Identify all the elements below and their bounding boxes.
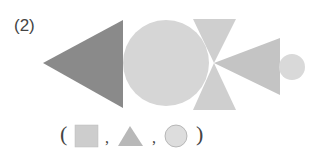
triangle-icon bbox=[118, 126, 143, 146]
close-paren: ) bbox=[196, 121, 203, 147]
large-circle-shape bbox=[123, 20, 209, 106]
small-circle-shape bbox=[279, 54, 305, 80]
square-icon bbox=[75, 125, 98, 147]
open-paren: ( bbox=[60, 121, 67, 147]
comma-separator-2: , bbox=[152, 129, 156, 147]
circle-icon bbox=[165, 125, 187, 147]
composite-figure bbox=[0, 0, 314, 150]
dark-triangle-shape bbox=[43, 20, 123, 108]
comma-separator-1: , bbox=[105, 129, 109, 147]
